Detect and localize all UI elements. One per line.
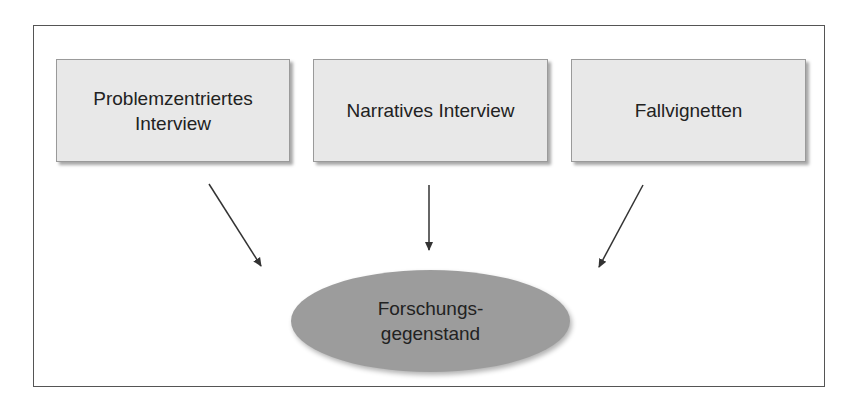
source-box-narratives-interview: Narratives Interview bbox=[313, 59, 548, 162]
source-label-line1: Problemzentriertes bbox=[93, 86, 252, 111]
source-label: Narratives Interview bbox=[347, 98, 515, 123]
target-label-line2: gegenstand bbox=[381, 321, 480, 346]
target-ellipse-forschungsgegenstand: Forschungs- gegenstand bbox=[291, 270, 570, 372]
source-box-problemzentriertes-interview: Problemzentriertes Interview bbox=[56, 59, 290, 162]
source-label: Fallvignetten bbox=[635, 98, 743, 123]
target-label-line1: Forschungs- bbox=[378, 296, 484, 321]
source-label-line2: Interview bbox=[93, 111, 252, 136]
source-box-fallvignetten: Fallvignetten bbox=[571, 59, 806, 162]
